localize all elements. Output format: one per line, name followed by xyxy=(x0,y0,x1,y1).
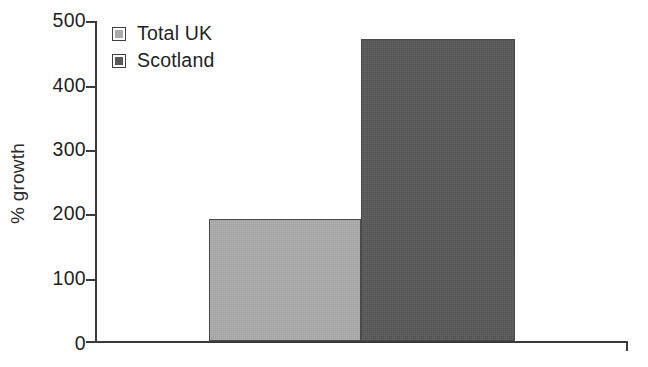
y-tick-label-400: 400 xyxy=(34,76,86,96)
y-tick-label-500: 500 xyxy=(34,11,86,31)
bar-chart: % growth 500 400 300 200 100 0 xyxy=(0,0,648,367)
y-tick-400 xyxy=(86,86,95,88)
legend-swatch-total-uk xyxy=(112,27,126,41)
legend-label-total-uk: Total UK xyxy=(137,24,212,44)
bar-scotland-texture xyxy=(362,40,514,340)
bar-total-uk-texture xyxy=(210,220,360,340)
x-axis-line xyxy=(95,341,628,343)
legend-label-scotland: Scotland xyxy=(137,51,215,71)
y-tick-200 xyxy=(86,214,95,216)
legend-swatch-scotland xyxy=(112,54,126,68)
y-tick-label-300: 300 xyxy=(34,140,86,160)
y-tick-500 xyxy=(86,21,95,23)
y-tick-label-200: 200 xyxy=(34,204,86,224)
y-axis-tick-labels: 500 400 300 200 100 0 xyxy=(30,0,86,367)
y-tick-100 xyxy=(86,279,95,281)
x-axis-end-tick xyxy=(626,341,628,351)
bar-total-uk xyxy=(209,219,361,341)
y-tick-label-0: 0 xyxy=(34,334,86,354)
y-axis-line xyxy=(95,21,97,343)
y-tick-300 xyxy=(86,150,95,152)
legend: Total UK Scotland xyxy=(112,20,215,74)
bar-scotland xyxy=(361,39,515,341)
legend-item-total-uk: Total UK xyxy=(112,20,215,47)
y-tick-0 xyxy=(86,341,95,343)
legend-item-scotland: Scotland xyxy=(112,47,215,74)
y-tick-label-100: 100 xyxy=(34,269,86,289)
